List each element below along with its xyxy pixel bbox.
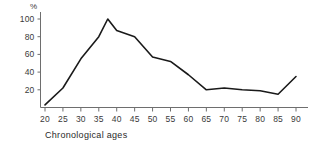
- y-axis-tick-label: 20: [25, 85, 35, 95]
- y-axis-unit-label: %: [30, 2, 37, 11]
- y-axis-tick-label: 40: [25, 67, 35, 77]
- x-axis-tick-label: 80: [255, 114, 265, 124]
- x-axis-tick-label: 85: [273, 114, 283, 124]
- x-axis-tick-label: 55: [166, 114, 176, 124]
- x-axis-tick-label: 60: [183, 114, 193, 124]
- x-axis-tick-label: 25: [58, 114, 68, 124]
- x-axis-tick-label: 35: [94, 114, 104, 124]
- x-axis-tick-label: 65: [201, 114, 211, 124]
- x-axis-tick-label: 70: [219, 114, 229, 124]
- x-axis-tick-label: 20: [40, 114, 50, 124]
- x-axis-tick-label: 45: [130, 114, 140, 124]
- x-axis-tick-labels: 202530354045505560657075808590: [40, 114, 301, 124]
- chart-container: 20406080100 2025303540455055606570758085…: [0, 0, 315, 147]
- x-axis-tick-label: 75: [237, 114, 247, 124]
- x-axis-tick-label: 90: [291, 114, 301, 124]
- line-chart: 20406080100 2025303540455055606570758085…: [0, 0, 315, 147]
- x-axis-tick-label: 50: [148, 114, 158, 124]
- y-axis-tick-label: 80: [25, 32, 35, 42]
- y-axis-tick-label: 100: [20, 14, 35, 24]
- y-axis-tick-label: 60: [25, 49, 35, 59]
- y-axis-tick-labels: 20406080100: [20, 14, 35, 95]
- x-axis-ticks: [45, 108, 296, 112]
- x-axis-tick-label: 30: [76, 114, 86, 124]
- x-axis-title: Chronological ages: [45, 130, 128, 140]
- x-axis-tick-label: 40: [112, 114, 122, 124]
- data-series-line: [45, 19, 296, 105]
